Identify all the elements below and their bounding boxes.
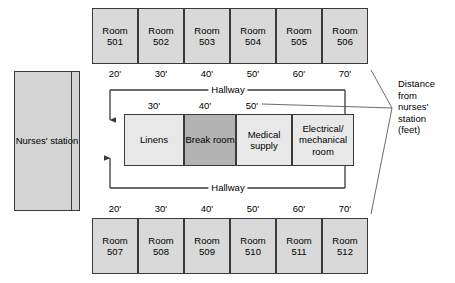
room-box-top-2: Room 502 — [138, 8, 184, 64]
center-room-label: Linens — [140, 134, 168, 145]
room-label: Room — [332, 235, 357, 246]
room-label: Room — [194, 25, 219, 36]
annotation-line-2: from — [398, 90, 455, 102]
room-number: 504 — [240, 36, 265, 47]
distance-annotation: Distance from nurses' station (feet) — [398, 78, 455, 136]
room-box-top-1: Room 501 — [92, 8, 138, 64]
room-number: 509 — [194, 246, 219, 257]
hallway-label-bottom: Hallway — [208, 182, 247, 193]
room-label: Room — [240, 25, 265, 36]
leader-line-bottom — [371, 108, 392, 214]
center-room-medical-supply: Medical supply — [236, 114, 292, 166]
room-number: 507 — [102, 246, 127, 257]
distance-label-bottom-4: 50' — [247, 203, 259, 214]
distance-label-bottom-2: 30' — [155, 203, 167, 214]
room-number: 508 — [148, 246, 173, 257]
distance-label-bottom-5: 60' — [293, 203, 305, 214]
room-box-top-4: Room 504 — [230, 8, 276, 64]
room-label: Room — [194, 235, 219, 246]
room-label: Room — [148, 235, 173, 246]
distance-label-top-3: 40' — [201, 68, 213, 79]
distance-label-bottom-6: 70' — [339, 203, 351, 214]
room-box-top-5: Room 505 — [276, 8, 322, 64]
leader-line-top — [371, 70, 392, 108]
center-room-label: Break — [185, 134, 210, 145]
distance-label-top-5: 60' — [293, 68, 305, 79]
floor-plan-diagram: Nurses' station Room 501 Room 502 Room 5… — [0, 0, 455, 283]
distance-label-bottom-1: 20' — [109, 203, 121, 214]
room-label: Room — [148, 25, 173, 36]
center-room-label-2: room — [213, 134, 235, 145]
nurses-station-divider — [71, 72, 72, 210]
room-box-bottom-5: Room 511 — [276, 218, 322, 274]
room-label: Room — [286, 235, 311, 246]
annotation-line-3: nurses' — [398, 101, 455, 113]
distance-label-top-4: 50' — [247, 68, 259, 79]
room-box-top-3: Room 503 — [184, 8, 230, 64]
distance-label-top-2: 30' — [155, 68, 167, 79]
distance-label-top-6: 70' — [339, 68, 351, 79]
room-number: 512 — [332, 246, 357, 257]
annotation-line-5: (feet) — [398, 124, 455, 136]
distance-label-center-2: 40' — [199, 100, 211, 111]
nurses-station-label-line1: Nurses' — [16, 135, 48, 146]
leader-line-center — [262, 104, 392, 108]
room-box-top-6: Room 506 — [322, 8, 368, 64]
room-number: 511 — [286, 246, 311, 257]
room-label: Room — [286, 25, 311, 36]
distance-label-center-3: 50' — [246, 100, 258, 111]
center-room-label-2: supply — [250, 140, 277, 151]
room-number: 502 — [148, 36, 173, 47]
annotation-line-1: Distance — [398, 78, 455, 90]
room-number: 501 — [102, 36, 127, 47]
room-label: Room — [102, 25, 127, 36]
distance-label-center-1: 30' — [148, 100, 160, 111]
distance-label-top-1: 20' — [109, 68, 121, 79]
room-number: 506 — [332, 36, 357, 47]
center-room-label: Electrical/ — [302, 123, 343, 134]
center-room-label-3: room — [312, 146, 334, 157]
center-room-label-2: mechanical — [299, 134, 347, 145]
distance-label-bottom-3: 40' — [201, 203, 213, 214]
nurses-station-label-line2: station — [50, 135, 78, 146]
room-box-bottom-6: Room 512 — [322, 218, 368, 274]
room-number: 503 — [194, 36, 219, 47]
room-label: Room — [332, 25, 357, 36]
room-box-bottom-4: Room 510 — [230, 218, 276, 274]
center-room-linens: Linens — [124, 114, 184, 166]
center-room-electrical-mechanical: Electrical/ mechanical room — [292, 114, 354, 166]
room-label: Room — [240, 235, 265, 246]
annotation-line-4: station — [398, 113, 455, 125]
center-room-label: Medical — [248, 129, 281, 140]
nurses-station-box: Nurses' station — [14, 71, 80, 211]
room-box-bottom-1: Room 507 — [92, 218, 138, 274]
room-label: Room — [102, 235, 127, 246]
room-box-bottom-3: Room 509 — [184, 218, 230, 274]
hallway-label-top: Hallway — [208, 84, 247, 95]
room-box-bottom-2: Room 508 — [138, 218, 184, 274]
center-room-break-room: Break room — [184, 114, 236, 166]
room-number: 505 — [286, 36, 311, 47]
room-number: 510 — [240, 246, 265, 257]
